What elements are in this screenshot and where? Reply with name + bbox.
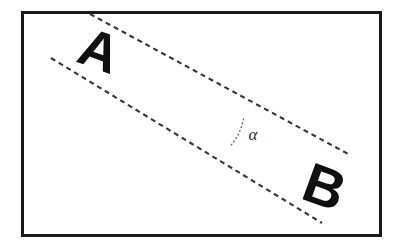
diagram-svg: A B α	[0, 0, 404, 251]
figure-canvas: A B α	[0, 0, 404, 251]
angle-alpha-label: α	[249, 125, 259, 144]
